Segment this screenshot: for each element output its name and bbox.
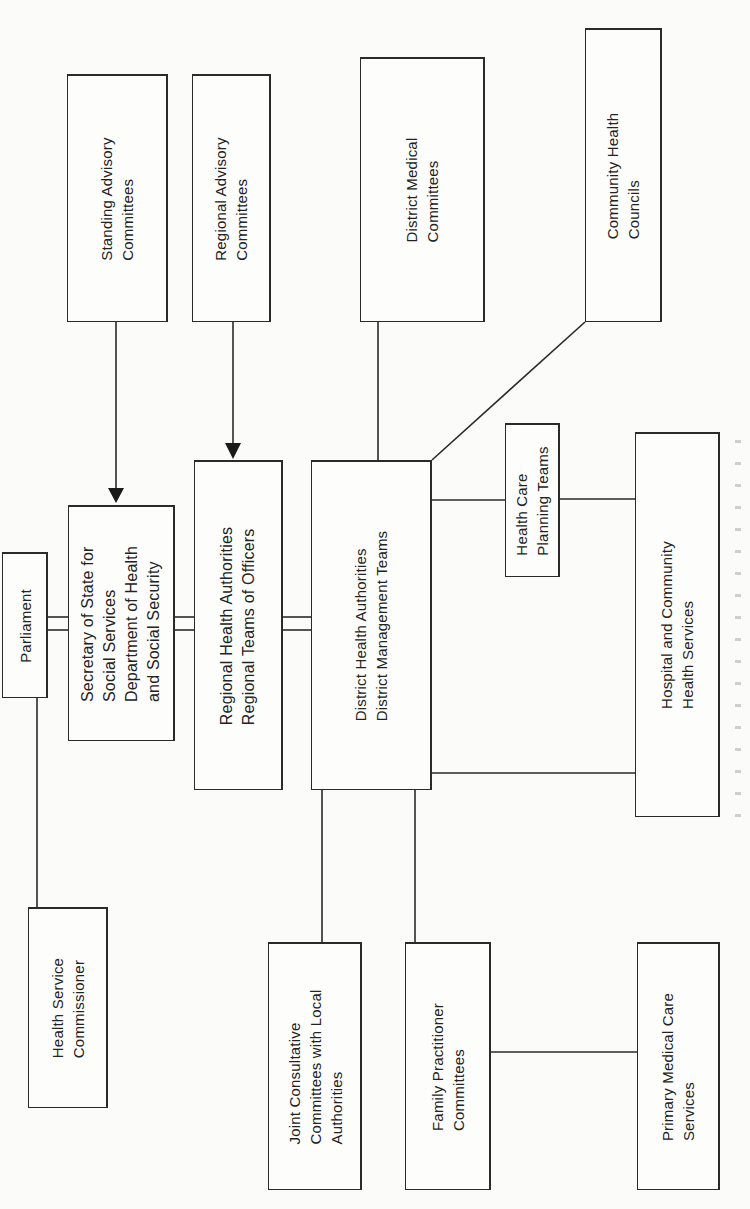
arrow-down-icon — [108, 488, 124, 503]
node-label: Parliament — [14, 589, 35, 663]
node-district-medical-committees: District Medical Committees — [360, 57, 485, 322]
node-label: Regional Advisory Committees — [210, 137, 252, 260]
illegible-caption-marks — [735, 440, 741, 830]
node-standing-advisory-committees: Standing Advisory Committees — [67, 74, 168, 322]
node-regional-health-authorities: Regional Health Authorities Regional Tea… — [194, 460, 283, 790]
node-health-care-planning-teams: Health Care Planning Teams — [505, 423, 560, 577]
node-hospital-community-health-services: Hospital and Community Health Services — [635, 432, 720, 817]
node-label: Health Care Planning Teams — [511, 446, 553, 555]
node-joint-consultative-committees: Joint Consultative Committees with Local… — [268, 942, 362, 1190]
node-label: Primary Medical Care Services — [657, 992, 699, 1140]
node-label: Standing Advisory Committees — [96, 137, 138, 260]
node-label: District Health Authorities District Man… — [350, 530, 392, 721]
node-label: Joint Consultative Committees with Local… — [283, 989, 346, 1144]
node-health-service-commissioner: Health Service Commissioner — [28, 907, 108, 1108]
node-label: Community Health Councils — [602, 112, 644, 239]
node-regional-advisory-committees: Regional Advisory Committees — [192, 74, 271, 322]
node-label: Health Service Commissioner — [47, 958, 89, 1058]
node-district-health-authorities: District Health Authorities District Man… — [311, 460, 432, 790]
node-label: Hospital and Community Health Services — [656, 541, 698, 709]
node-label: Family Practitioner Committees — [427, 1003, 469, 1131]
org-chart-diagram: Standing Advisory Committees Regional Ad… — [0, 0, 750, 1209]
arrow-down-icon — [225, 443, 241, 459]
node-parliament: Parliament — [2, 552, 48, 698]
node-label: Regional Health Authorities Regional Tea… — [216, 526, 260, 724]
node-family-practitioner-committees: Family Practitioner Committees — [405, 942, 491, 1190]
node-label: District Medical Committees — [401, 138, 443, 243]
node-community-health-councils: Community Health Councils — [585, 28, 662, 322]
node-label: Secretary of State for Social Services D… — [77, 545, 165, 701]
node-secretary-of-state: Secretary of State for Social Services D… — [68, 505, 175, 741]
node-primary-medical-care-services: Primary Medical Care Services — [637, 942, 720, 1190]
